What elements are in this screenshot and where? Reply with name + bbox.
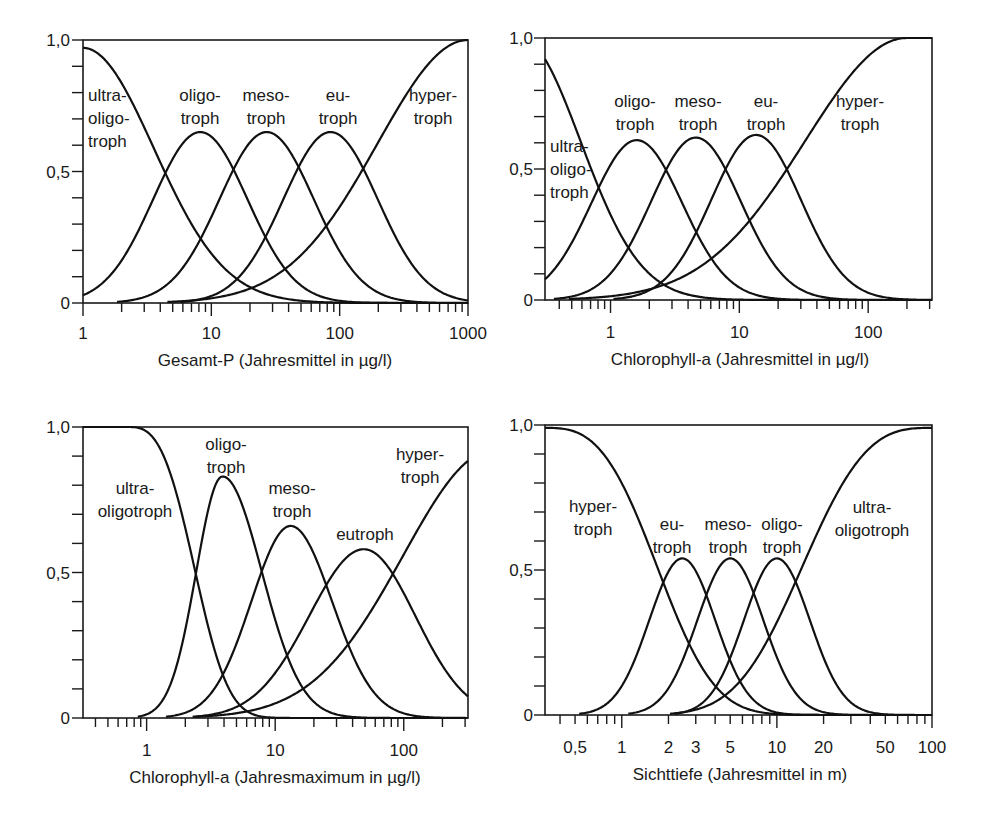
x-axis-title: Gesamt-P (Jahresmittel in µg/l) [158,351,392,370]
x-tick-label: 100 [854,323,882,342]
x-tick-label: 1 [78,324,87,343]
x-tick-label: 2 [664,738,673,757]
x-tick-label: 50 [876,738,895,757]
x-tick-label: 100 [918,738,946,757]
y-tick-label: 0,5 [46,564,70,583]
x-tick-label: 1000 [449,324,487,343]
x-tick-label: 3 [691,738,700,757]
y-tick-label: 1,0 [509,29,533,48]
x-tick-label: 1 [142,741,151,760]
y-tick-label: 0 [61,709,70,728]
y-tick-label: 1,0 [46,31,70,50]
x-tick-label: 10 [202,324,221,343]
x-tick-label: 10 [730,323,749,342]
x-tick-label: 100 [390,741,418,760]
trophic-state-figure: 00,51,01101001000Gesamt-P (Jahresmittel … [0,0,995,813]
x-tick-label: 1 [617,738,626,757]
x-tick-label: 1 [606,323,615,342]
x-axis-title: Chlorophyll-a (Jahresmittel in µg/l) [611,350,869,369]
y-tick-label: 1,0 [509,416,533,435]
curve-label: ultra-oligo-troph [88,86,130,151]
y-tick-label: 0 [524,706,533,725]
y-tick-label: 0 [524,291,533,310]
y-tick-label: 0,5 [509,561,533,580]
x-tick-label: 10 [266,741,285,760]
x-tick-label: 100 [325,324,353,343]
x-axis-title: Chlorophyll-a (Jahresmaximum in µg/l) [129,768,420,787]
curve-label: eutroph [336,525,394,544]
y-tick-label: 0,5 [46,163,70,182]
x-tick-label: 10 [767,738,786,757]
y-tick-label: 0,5 [509,160,533,179]
y-tick-label: 1,0 [46,418,70,437]
x-tick-label: 5 [725,738,734,757]
x-axis-title: Sichttiefe (Jahresmittel in m) [633,765,847,784]
x-tick-label: 0,5 [563,738,587,757]
y-tick-label: 0 [61,294,70,313]
curve-label: ultra-oligo-troph [550,137,592,202]
x-tick-label: 20 [814,738,833,757]
